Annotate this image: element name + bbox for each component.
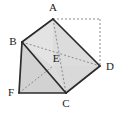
vertex-label-b: B <box>9 35 16 47</box>
vertex-label-c: C <box>62 97 69 109</box>
vertex-label-d: D <box>106 60 114 72</box>
geometry-canvas: ABCDEF <box>0 0 122 117</box>
vertex-label-e: E <box>53 52 60 64</box>
vertex-label-f: F <box>8 86 14 98</box>
vertex-label-a: A <box>49 1 57 13</box>
geometry-figure: ABCDEF <box>0 0 122 117</box>
